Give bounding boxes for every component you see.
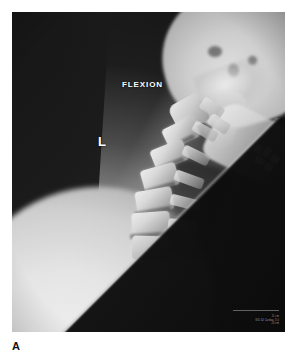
side-marker-left: L: [98, 134, 106, 149]
position-marker-flexion: FLEXION: [122, 80, 163, 89]
collimator-edge-lower-highlight: [51, 118, 285, 332]
figure-panel: FLEXION L 11 cm SID 44 Cardiac 3.0 23 cm…: [0, 0, 293, 360]
panel-label: A: [12, 340, 20, 352]
radiograph-image: FLEXION L 11 cm SID 44 Cardiac 3.0 23 cm: [12, 12, 285, 332]
dicom-technical-stamp: 11 cm SID 44 Cardiac 3.0 23 cm: [255, 315, 279, 326]
dicom-stamp-line-3: 23 cm: [255, 322, 279, 326]
dicom-stamp-rule: [233, 310, 279, 311]
skull-lucency: [208, 46, 222, 57]
